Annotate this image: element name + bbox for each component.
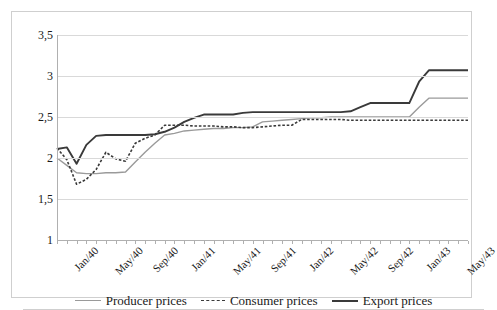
x-tick-label: Sep/40 bbox=[151, 245, 180, 274]
x-tick-label: Sep/41 bbox=[269, 245, 298, 274]
y-tick-label: 3,5 bbox=[13, 29, 53, 41]
legend-item-export-prices: Export prices bbox=[332, 294, 433, 307]
gridline-y bbox=[57, 199, 468, 200]
x-tick-label: May/40 bbox=[113, 245, 145, 277]
y-tick-label: 2,5 bbox=[13, 111, 53, 123]
chart-legend: Producer prices Consumer prices Export p… bbox=[23, 291, 484, 310]
x-tick-label: Jan/41 bbox=[190, 245, 218, 273]
legend-line-consumer-icon bbox=[201, 300, 225, 301]
x-tick-label: Jan/40 bbox=[72, 245, 100, 273]
x-axis-tick-labels: Jan/40May/40Sep/40Jan/41May/41Sep/41Jan/… bbox=[12, 243, 496, 289]
series-canvas bbox=[57, 35, 468, 240]
legend-label-consumer: Consumer prices bbox=[230, 294, 318, 307]
x-tick-label: Jan/43 bbox=[425, 245, 453, 273]
series-line-consumer-prices bbox=[57, 119, 468, 184]
gridline-y bbox=[57, 76, 468, 77]
legend-item-producer-prices: Producer prices bbox=[75, 294, 187, 307]
x-tick-label: Sep/42 bbox=[386, 245, 415, 274]
cropped-caption-remnant bbox=[0, 0, 484, 9]
x-tick-label: May/42 bbox=[348, 245, 380, 277]
x-tick-label: May/43 bbox=[465, 245, 497, 277]
y-axis-line bbox=[57, 35, 58, 240]
plot-area bbox=[57, 35, 468, 240]
y-tick-label: 1,5 bbox=[13, 193, 53, 205]
x-tick-label: May/41 bbox=[231, 245, 263, 277]
legend-label-export: Export prices bbox=[363, 294, 433, 307]
legend-label-producer: Producer prices bbox=[106, 294, 187, 307]
legend-line-producer-icon bbox=[75, 300, 101, 301]
y-axis-tick-labels: 11,522,533,5 bbox=[12, 12, 53, 252]
legend-item-consumer-prices: Consumer prices bbox=[201, 294, 318, 307]
legend-line-export-icon bbox=[332, 300, 358, 302]
x-tick-label: Jan/42 bbox=[307, 245, 335, 273]
y-tick-label: 3 bbox=[13, 70, 53, 82]
gridline-y bbox=[57, 35, 468, 36]
gridline-y bbox=[57, 158, 468, 159]
y-tick-label: 2 bbox=[13, 152, 53, 164]
chart-frame: 11,522,533,5 Jan/40May/40Sep/40Jan/41May… bbox=[11, 11, 472, 298]
gridline-y bbox=[57, 117, 468, 118]
